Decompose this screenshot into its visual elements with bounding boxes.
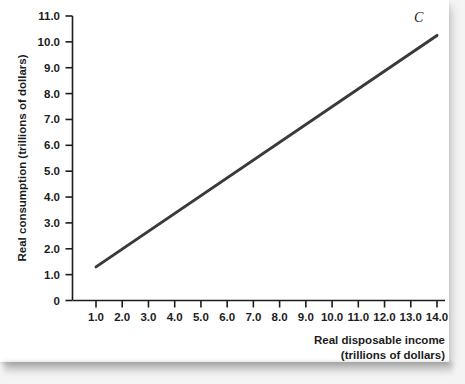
x-axis-title-line1: Real disposable income [314,334,445,346]
x-tick-label-8.0: 8.0 [272,311,288,323]
x-tick-label-12.0: 12.0 [373,311,395,323]
y-tick-label-7.0: 7.0 [44,113,60,125]
y-tick-label-10.0: 10.0 [38,36,60,48]
y-tick-label-6.0: 6.0 [44,139,60,151]
y-tick-label-5.0: 5.0 [44,165,60,177]
y-tick-label-0: 0 [54,295,60,307]
chart-canvas: 01.02.03.04.05.06.07.08.09.010.011.0 1.0… [0,0,465,384]
y-tick-label-8.0: 8.0 [44,88,60,100]
series-label-group: C [414,10,424,25]
x-tick-label-7.0: 7.0 [245,311,261,323]
y-tick-label-1.0: 1.0 [44,269,60,281]
x-tick-label-14.0: 14.0 [426,311,448,323]
x-tick-label-2.0: 2.0 [114,311,130,323]
x-tick-label-9.0: 9.0 [298,311,314,323]
y-tick-label-9.0: 9.0 [44,62,60,74]
x-axis-ticks [96,301,437,308]
x-tick-label-6.0: 6.0 [219,311,235,323]
series-label-C: C [414,10,424,25]
y-tick-label-11.0: 11.0 [38,10,60,22]
x-tick-label-11.0: 11.0 [347,311,369,323]
x-tick-label-10.0: 10.0 [321,311,343,323]
x-tick-label-3.0: 3.0 [140,311,156,323]
y-axis-tick-labels: 01.02.03.04.05.06.07.08.09.010.011.0 [38,10,60,307]
x-tick-label-13.0: 13.0 [400,311,422,323]
y-axis-ticks [66,16,73,301]
y-tick-label-4.0: 4.0 [44,191,60,203]
x-tick-label-4.0: 4.0 [167,311,183,323]
y-tick-label-2.0: 2.0 [44,243,60,255]
x-tick-label-1.0: 1.0 [88,311,104,323]
x-tick-label-5.0: 5.0 [193,311,209,323]
data-series-group [96,35,437,266]
y-tick-label-3.0: 3.0 [44,217,60,229]
y-axis-title: Real consumption (trillions of dollars) [16,54,28,261]
x-axis-tick-labels: 1.02.03.04.05.06.07.08.09.010.011.012.01… [88,311,448,323]
series-line-C [96,35,437,266]
x-axis-title-line2: (trillions of dollars) [341,349,445,361]
consumption-function-figure: 01.02.03.04.05.06.07.08.09.010.011.0 1.0… [0,0,465,384]
